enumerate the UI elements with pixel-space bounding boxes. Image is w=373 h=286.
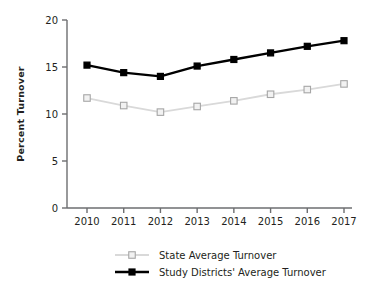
- data-point-marker: [157, 109, 164, 116]
- data-point-marker: [121, 70, 127, 76]
- data-point-marker: [268, 50, 274, 56]
- y-axis-tick-label: 15: [45, 62, 58, 73]
- chart-figure: 0510152020102011201220132014201520162017…: [0, 0, 373, 286]
- legend-label: Study Districts' Average Turnover: [159, 267, 327, 278]
- data-point-marker: [341, 38, 347, 44]
- x-axis-tick-label: 2016: [295, 216, 320, 227]
- y-axis-tick-label: 0: [52, 203, 58, 214]
- legend-label: State Average Turnover: [159, 250, 277, 261]
- data-point-marker: [304, 43, 310, 49]
- y-axis-tick-label: 20: [45, 15, 58, 26]
- y-axis-label: Percent Turnover: [15, 66, 26, 162]
- data-point-marker: [157, 73, 163, 79]
- x-axis-tick-label: 2015: [258, 216, 283, 227]
- x-axis-tick-label: 2012: [148, 216, 173, 227]
- data-point-marker: [194, 103, 201, 110]
- data-point-marker: [84, 95, 91, 102]
- data-point-marker: [84, 62, 90, 68]
- legend-marker: [129, 252, 136, 259]
- x-axis-tick-label: 2013: [184, 216, 209, 227]
- line-chart: 0510152020102011201220132014201520162017…: [0, 0, 373, 286]
- x-axis-tick-label: 2014: [221, 216, 246, 227]
- x-axis-tick-label: 2010: [74, 216, 99, 227]
- x-axis-tick-label: 2017: [331, 216, 356, 227]
- data-point-marker: [267, 91, 274, 98]
- y-axis-tick-label: 10: [45, 109, 58, 120]
- y-axis-tick-label: 5: [52, 156, 58, 167]
- x-axis-tick-label: 2011: [111, 216, 136, 227]
- data-point-marker: [341, 81, 348, 88]
- data-point-marker: [231, 56, 237, 62]
- data-point-marker: [120, 102, 127, 109]
- legend-marker: [129, 269, 135, 275]
- data-point-marker: [304, 86, 311, 93]
- data-point-marker: [231, 98, 238, 105]
- data-point-marker: [194, 63, 200, 69]
